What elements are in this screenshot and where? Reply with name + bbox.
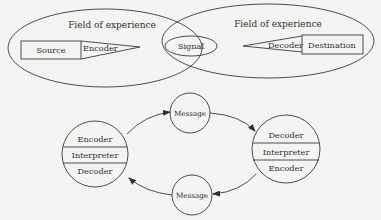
diagram-svg: Field of experience Field of experience … — [0, 0, 381, 220]
communication-model-diagram: Field of experience Field of experience … — [0, 0, 381, 220]
decoder-label: Decoder — [268, 40, 303, 50]
source-box: Source — [21, 41, 81, 59]
left-field-label: Field of experience — [68, 20, 156, 30]
arrow-top-message-to-right — [210, 113, 255, 131]
left-party-layer-3: Decoder — [78, 166, 113, 176]
left-party-circle: Encoder Interpreter Decoder — [62, 121, 128, 187]
right-party-layer-1: Decoder — [269, 130, 304, 140]
arrow-left-to-top-message — [127, 112, 170, 134]
decoder-wedge: Decoder — [243, 36, 303, 52]
right-party-layer-2: Interpreter — [263, 147, 310, 157]
encoder-wedge: Encoder — [81, 41, 140, 59]
left-party-layer-2: Interpreter — [72, 150, 119, 160]
right-party-layer-3: Encoder — [269, 163, 304, 173]
signal-ellipse: Signal — [165, 36, 217, 56]
encoder-label: Encoder — [83, 43, 118, 53]
top-message-circle: Message — [170, 93, 210, 133]
right-party-circle: Decoder Interpreter Encoder — [252, 115, 320, 183]
signal-label: Signal — [178, 41, 205, 51]
source-label: Source — [36, 45, 65, 55]
bottom-message-label: Message — [176, 191, 208, 200]
left-party-layer-1: Encoder — [78, 134, 113, 144]
right-field-label: Field of experience — [234, 19, 322, 29]
arrow-bottom-message-to-left — [129, 178, 172, 195]
destination-label: Destination — [308, 40, 357, 50]
destination-box: Destination — [302, 35, 363, 54]
bottom-message-circle: Message — [172, 175, 212, 215]
arrow-right-to-bottom-message — [213, 174, 256, 194]
top-message-label: Message — [174, 109, 206, 118]
